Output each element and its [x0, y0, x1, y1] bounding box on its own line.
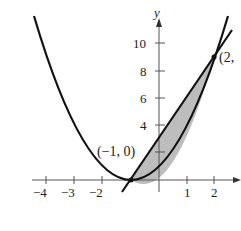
x-tick-1: 1 — [184, 186, 191, 199]
point-b-label: (2, — [219, 51, 234, 65]
y-tick-8: 8 — [140, 65, 147, 78]
point-a-label: (−1, 0) — [97, 145, 135, 159]
point-a-marker — [129, 178, 134, 183]
y-tick-4: 4 — [140, 119, 147, 132]
x-tick-neg3: −3 — [61, 186, 75, 199]
y-tick-10: 10 — [133, 37, 146, 50]
x-tick-neg4: −4 — [33, 186, 47, 199]
y-tick-6: 6 — [140, 92, 147, 105]
y-axis-label: y — [154, 6, 160, 19]
point-b-marker — [212, 55, 217, 60]
x-axis-arrow — [233, 177, 241, 183]
x-tick-2: 2 — [211, 186, 218, 199]
x-tick-neg2: −2 — [89, 186, 103, 199]
line-curve — [122, 30, 232, 192]
